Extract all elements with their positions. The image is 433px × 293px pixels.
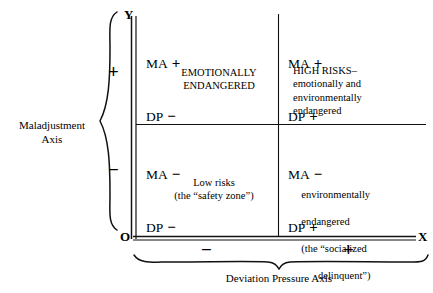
- deviation-negative-sign: −: [201, 240, 212, 259]
- lower-left-dp-row: DP−: [146, 218, 180, 237]
- maladjustment-negative-sign: −: [108, 160, 119, 179]
- upper-left-dp-sign: −: [163, 108, 176, 124]
- upper-left-dp-row: DP−: [146, 107, 180, 126]
- lower-right-description-line-1: environmentally: [301, 189, 370, 200]
- origin-letter: O: [120, 230, 130, 245]
- y-axis-line: [132, 16, 137, 239]
- upper-left-dp-label: DP: [146, 109, 163, 124]
- lower-right-description-line-2: endangered: [301, 216, 349, 227]
- maladjustment-axis-brace: [100, 12, 117, 230]
- y-axis-letter: Y: [124, 8, 134, 23]
- lower-left-dp-label: DP: [146, 220, 163, 235]
- maladjustment-axis-caption: Maladjustment Axis: [6, 118, 98, 147]
- lower-left-description: Low risks (the “safety zone”): [152, 176, 276, 203]
- lower-right-description-line-3: (the “socialized: [301, 243, 367, 254]
- maladjustment-positive-sign: +: [108, 62, 119, 81]
- upper-left-description: EMOTIONALLY ENDANGERED: [163, 66, 275, 93]
- deviation-pressure-axis-caption: Deviation Pressure Axis: [133, 272, 425, 284]
- upper-right-description: HIGH RISKS– emotionally and environmenta…: [293, 64, 427, 118]
- lower-left-dp-sign: −: [163, 219, 176, 235]
